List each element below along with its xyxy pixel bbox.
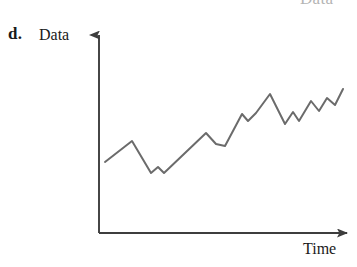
data-series-line [105, 89, 343, 173]
chart-figure: Data d. Data Time [0, 0, 357, 267]
plot-area [0, 0, 357, 267]
